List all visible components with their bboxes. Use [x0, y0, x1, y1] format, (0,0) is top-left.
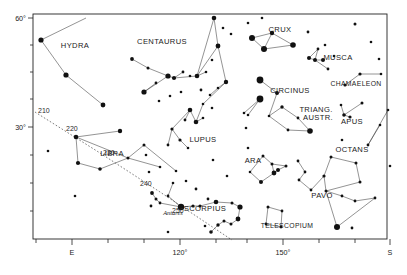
star-marker [249, 171, 252, 174]
star-marker [276, 168, 280, 172]
star-marker [257, 96, 264, 103]
star-marker [98, 167, 102, 171]
star-marker [212, 159, 215, 162]
constellation-label: PAVO [311, 191, 332, 200]
constellation-label: AUSTR. [303, 113, 333, 122]
star-marker [354, 200, 357, 203]
constellation-label: TELESCOPIUM [261, 222, 314, 229]
star-marker [317, 48, 320, 51]
star-marker [355, 162, 358, 165]
star-marker [307, 128, 313, 134]
star-marker [379, 124, 382, 127]
star-marker [361, 102, 364, 105]
star-marker [188, 108, 193, 113]
star-marker [127, 157, 130, 160]
star-marker [262, 155, 265, 158]
star-marker [167, 144, 170, 147]
star-marker [148, 171, 151, 174]
constellation-label: APUS [341, 117, 363, 126]
constellation-label: LUPUS [189, 135, 216, 144]
star-marker [169, 95, 172, 98]
constellation-label: ARA [245, 156, 262, 165]
star-marker [247, 22, 250, 25]
star-marker [307, 56, 311, 60]
star-marker [237, 204, 242, 209]
star-marker [167, 231, 170, 234]
ecliptic-degree-label: 240 [140, 180, 152, 187]
star-marker [178, 138, 181, 141]
star-marker [211, 59, 214, 62]
star-marker [324, 44, 327, 47]
star-marker [281, 210, 284, 213]
star-marker [172, 76, 176, 80]
star-marker [182, 71, 185, 74]
star-marker [230, 223, 233, 226]
star-marker [340, 104, 343, 107]
star-marker [370, 41, 373, 44]
star-marker [245, 127, 248, 130]
star-marker [165, 73, 170, 78]
star-marker [159, 202, 162, 205]
star-marker [374, 197, 377, 200]
star-marker [187, 147, 190, 150]
star-marker [358, 72, 361, 75]
constellation-label: SCORPIUS [184, 204, 226, 213]
star-marker [285, 165, 288, 168]
star-marker [101, 103, 106, 108]
star-marker [185, 180, 188, 183]
star-marker [209, 94, 212, 97]
star-marker [143, 144, 146, 147]
star-marker [200, 89, 203, 92]
star-marker [147, 67, 150, 70]
star-marker [76, 161, 80, 165]
star-marker [272, 171, 277, 176]
star-marker [334, 224, 340, 230]
star-marker [380, 73, 383, 76]
star-marker [243, 112, 246, 115]
star-marker [118, 129, 122, 133]
star-marker [330, 156, 333, 159]
constellation-label: CRUX [269, 25, 292, 34]
star-marker [359, 181, 362, 184]
star-marker [63, 72, 68, 77]
star-marker [150, 191, 154, 195]
star-marker [261, 46, 267, 52]
star-marker [216, 223, 219, 226]
star-marker [207, 198, 210, 201]
star-marker [180, 91, 183, 94]
star-marker [209, 230, 213, 234]
constellation-label: HYDRA [61, 41, 90, 50]
star-marker [230, 33, 233, 36]
star-marker [341, 195, 344, 198]
star-marker [224, 80, 228, 84]
star-marker [205, 71, 208, 74]
star-marker [247, 147, 250, 150]
sky-map-svg: 60°30°E120°150°S 210220230240250 HYDRACE… [0, 0, 407, 275]
x-axis-tick-label: 150° [276, 248, 291, 257]
ecliptic-degree-label: 210 [38, 107, 50, 114]
star-marker [268, 115, 271, 118]
constellation-label: CIRCINUS [270, 86, 310, 95]
star-marker [194, 120, 199, 125]
star-marker [226, 175, 229, 178]
star-marker [189, 75, 192, 78]
star-marker [389, 165, 392, 168]
star-marker [175, 170, 178, 173]
star-marker [202, 103, 205, 106]
y-axis-tick-label: 60° [15, 14, 26, 23]
star-marker [195, 188, 198, 191]
star-marker [378, 58, 381, 61]
star-marker [38, 37, 43, 42]
star-marker [261, 17, 264, 20]
y-axis-tick-label: 30° [15, 123, 26, 132]
star-marker [297, 117, 300, 120]
star-marker [145, 154, 148, 157]
star-marker [304, 171, 307, 174]
star-marker [217, 87, 220, 90]
star-marker [259, 180, 263, 184]
star-marker [327, 68, 330, 71]
constellation-label: MUSCA [323, 53, 353, 62]
x-axis-tick-label: S [388, 248, 393, 257]
constellation-label: LIBRA [100, 149, 124, 158]
star-marker [155, 198, 158, 201]
